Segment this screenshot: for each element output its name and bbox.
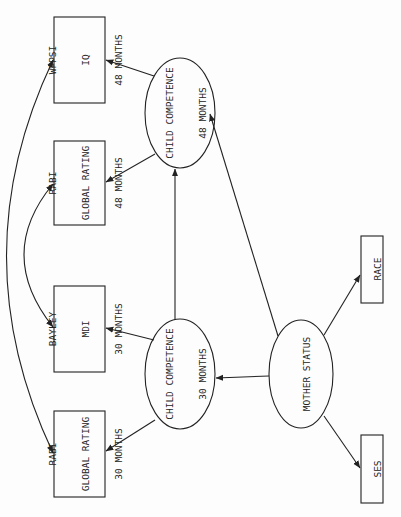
rabi-30-label: RABI GLOBAL RATING 30 MONTHS	[25, 417, 135, 491]
race-label: RACE	[350, 258, 394, 281]
label-line: MDI	[80, 303, 91, 354]
mother-status-label: MOTHER STATUS	[279, 337, 323, 411]
label-line: 30 MONTHS	[113, 417, 124, 491]
label-line: BAYLEY	[47, 303, 58, 354]
label-line: CHILD COMPETENCE	[164, 67, 175, 159]
curve-wppsi-rabi30	[7, 60, 54, 453]
child-competence-30-label: CHILD COMPETENCE 30 MONTHS	[142, 328, 219, 420]
edge-mother-race	[324, 275, 360, 335]
label-line: RABI	[47, 417, 58, 491]
label-line: MOTHER STATUS	[301, 337, 312, 411]
label-line: GLOBAL RATING	[80, 417, 91, 491]
label-line: WPPSI	[47, 34, 58, 85]
label-line: IQ	[80, 34, 91, 85]
label-line: SES	[372, 460, 383, 477]
edge-mother-cc30	[216, 376, 269, 378]
rabi-48-label: RABI GLOBAL RATING 48 MONTHS	[25, 146, 135, 220]
label-line: 30 MONTHS	[113, 303, 124, 354]
label-line: 48 MONTHS	[113, 34, 124, 85]
edge-mother-cc48	[210, 114, 278, 336]
wppsi-label: WPPSI IQ 48 MONTHS	[25, 34, 135, 85]
label-line: 48 MONTHS	[113, 146, 124, 220]
label-line: GLOBAL RATING	[80, 146, 91, 220]
label-line: RABI	[47, 146, 58, 220]
child-competence-48-label: CHILD COMPETENCE 48 MONTHS	[142, 67, 219, 159]
label-line: 30 MONTHS	[197, 328, 208, 420]
ses-label: SES	[350, 460, 394, 477]
bayley-label: BAYLEY MDI 30 MONTHS	[25, 303, 135, 354]
label-line: CHILD COMPETENCE	[164, 328, 175, 420]
label-line: RACE	[372, 258, 383, 281]
label-line: 48 MONTHS	[197, 67, 208, 159]
